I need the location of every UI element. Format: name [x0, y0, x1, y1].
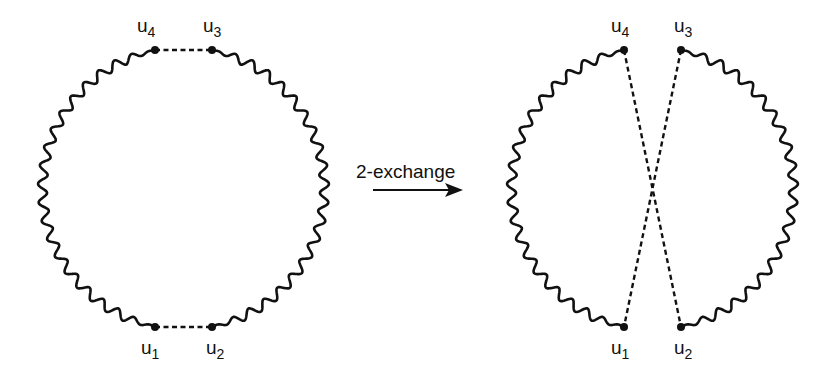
- tour-before: u4 u3 u1 u2: [38, 15, 329, 362]
- node-u4: [151, 46, 159, 54]
- wavy-path-left-arc: [507, 50, 624, 326]
- label-u2: u2: [674, 337, 693, 362]
- label-u3: u3: [674, 15, 693, 40]
- node-u1: [151, 323, 159, 331]
- exchange-arrow-group: 2-exchange: [356, 161, 463, 197]
- wavy-path-left-arc: [38, 50, 155, 326]
- label-u3: u3: [203, 15, 222, 40]
- wavy-path-right-arc: [681, 50, 798, 326]
- label-u4: u4: [137, 15, 156, 40]
- label-u1: u1: [141, 337, 160, 362]
- label-u2: u2: [206, 337, 225, 362]
- label-u1: u1: [611, 337, 630, 362]
- node-u2: [208, 323, 216, 331]
- node-u3: [677, 46, 685, 54]
- node-u3: [208, 46, 216, 54]
- operation-label: 2-exchange: [356, 161, 455, 182]
- node-u4: [620, 46, 628, 54]
- node-u1: [620, 323, 628, 331]
- node-u2: [677, 323, 685, 331]
- wavy-path-right-arc: [212, 50, 329, 326]
- label-u4: u4: [611, 15, 630, 40]
- two-exchange-diagram: u4 u3 u1 u2 2-exchange u4 u3 u1 u2: [0, 0, 837, 380]
- tour-after: u4 u3 u1 u2: [507, 15, 798, 362]
